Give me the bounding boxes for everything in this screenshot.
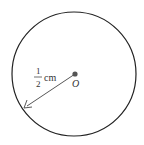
radius-denominator: 2 [36,79,41,89]
circle-diagram: O 1 2 cm [0,0,144,145]
radius-unit: cm [44,72,56,83]
radius-numerator: 1 [36,66,41,76]
center-point [72,71,77,76]
center-label: O [72,78,79,89]
